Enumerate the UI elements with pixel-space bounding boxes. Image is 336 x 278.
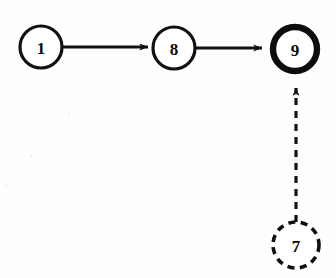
node-1-label: 1: [37, 39, 46, 58]
node-7-label: 7: [292, 237, 301, 256]
node-9[interactable]: 9: [273, 27, 317, 71]
node-7[interactable]: 7: [273, 222, 319, 268]
node-1[interactable]: 1: [20, 26, 62, 68]
graph-svg: 1 8 9 7: [0, 0, 336, 278]
node-8[interactable]: 8: [153, 27, 195, 69]
node-8-label: 8: [170, 40, 179, 59]
node-9-label: 9: [291, 41, 300, 60]
diagram-canvas: 1 8 9 7: [0, 0, 336, 278]
